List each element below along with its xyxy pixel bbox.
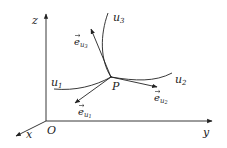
vec-e-u1-subindex: 1 [88,113,91,119]
curve-u2-name: u [175,73,182,86]
axes [16,14,212,136]
curve-u2-sub: 2 [181,79,187,87]
vector-label-e-u3: eu3 [74,34,88,49]
curve-label-u1: u1 [51,76,63,90]
coordinate-curves [54,13,172,89]
vector-e-u1 [75,77,111,103]
curve-u1-name: u [51,76,58,89]
y-axis-label: y [202,126,210,139]
curve-label-u2: u2 [175,73,187,87]
curve-u3-sub: 3 [120,17,125,25]
svg-text:u1: u1 [51,76,63,90]
vec-e-u3-subindex: 3 [84,43,87,49]
z-axis-label: z [31,14,38,27]
point-label: P [111,80,120,93]
origin-label: O [47,124,56,137]
svg-text:eu2: eu2 [154,92,168,105]
curvilinear-coordinates-diagram: z y x O P u1 u2 u3 eu1 eu2 eu3 [0,0,227,148]
vector-e-u3 [91,29,111,77]
curve-u1-sub: 1 [58,82,62,90]
vec-e-u2-subindex: 2 [163,99,167,105]
svg-text:u3: u3 [113,11,125,25]
point-P-dot [110,76,112,78]
svg-text:u2: u2 [175,73,187,87]
svg-text:eu1: eu1 [78,106,92,119]
curve-label-u3: u3 [113,11,125,25]
vector-label-e-u1: eu1 [78,104,92,119]
vector-label-e-u2: eu2 [154,90,168,105]
curve-u3-name: u [113,11,120,24]
x-axis-label: x [26,128,33,141]
svg-text:eu3: eu3 [74,36,88,49]
